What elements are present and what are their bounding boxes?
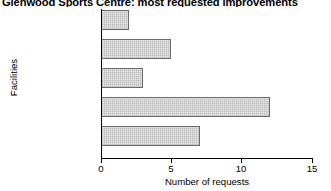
bar-showers: [101, 97, 270, 117]
x-axis-line: [101, 158, 313, 159]
bar-chart-figure: Glenwood Sports Centre: most requested i…: [0, 0, 331, 191]
y-axis-line: [101, 9, 102, 159]
chart-title: Glenwood Sports Centre: most requested i…: [2, 0, 329, 7]
bar-sauna: [101, 10, 129, 30]
bar-changing-room: [101, 126, 200, 146]
bar-tennis-courts: [101, 68, 143, 88]
x-tick-label-0: 0: [81, 163, 121, 175]
bar-weights: [101, 39, 171, 59]
y-axis-title: Facilities: [8, 48, 19, 108]
x-tick-label-10: 10: [221, 163, 261, 175]
plot-area: Sauna Weights Tennis courts Showers Chan…: [101, 10, 312, 158]
x-tick-label-15: 15: [292, 163, 331, 175]
x-tick-label-5: 5: [151, 163, 191, 175]
x-axis-title: Number of requests: [101, 176, 313, 187]
